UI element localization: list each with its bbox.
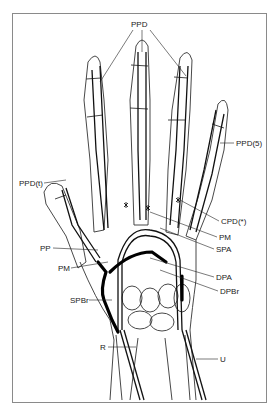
label-ppd-top: PPD bbox=[131, 20, 147, 29]
label-u: U bbox=[220, 355, 226, 364]
label-spbr: SPBr bbox=[70, 296, 89, 305]
label-dpa: DPA bbox=[216, 273, 232, 282]
label-ppdt: PPD(t) bbox=[19, 179, 43, 188]
label-pm-left: PM bbox=[58, 264, 70, 273]
label-pp: PP bbox=[40, 244, 51, 253]
label-dpbr: DPBr bbox=[220, 287, 239, 296]
label-spa: SPA bbox=[216, 245, 231, 254]
label-pm-right: PM bbox=[219, 233, 231, 242]
hand-arteries-drawing bbox=[0, 0, 280, 418]
label-ppd5: PPD(5) bbox=[236, 139, 262, 148]
label-r: R bbox=[100, 343, 106, 352]
label-cpd: CPD(*) bbox=[221, 217, 246, 226]
